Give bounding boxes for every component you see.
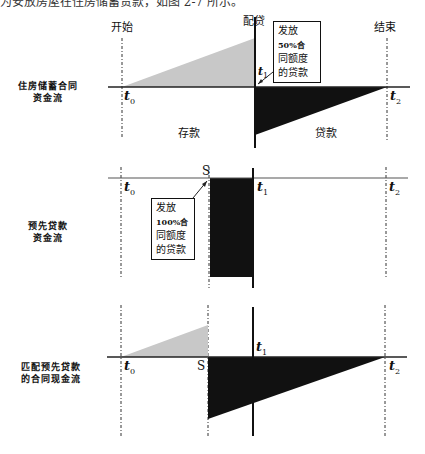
deposit-triangle: [122, 38, 255, 87]
callout-50-percent: 发放50%合 同额度的贷款: [273, 21, 321, 83]
t2-label: t2: [389, 179, 400, 197]
deposit-label: 存款: [178, 124, 200, 140]
t1-label: t1: [256, 339, 267, 357]
t0-label: t0: [124, 358, 135, 376]
t0-label: t0: [124, 179, 135, 197]
callout-100-percent: 发放100%合 同额度的贷款: [151, 198, 195, 260]
s-label: S: [202, 164, 210, 178]
loan-label: 贷款: [315, 124, 337, 140]
panel-1-label: 住房储蓄合同 资金流: [12, 80, 84, 104]
t2-label: t2: [389, 358, 400, 376]
panel-3-label: 匹配预先贷款 的合同现金流: [14, 361, 88, 385]
t0-label: t0: [124, 88, 135, 106]
loan-rect: [210, 178, 253, 277]
panel-1-graphics: [108, 17, 410, 148]
panel-2-label: 预先贷款 资金流: [18, 220, 78, 244]
header-allocation: 配贷: [243, 12, 265, 28]
s-label: S: [197, 359, 205, 373]
panel-3-graphics: [107, 305, 407, 436]
header-end: 结束: [374, 18, 396, 34]
header-start: 开始: [111, 18, 133, 34]
t1-label: t1: [257, 179, 268, 197]
t2-label: t2: [390, 88, 401, 106]
t1-label: t1: [258, 65, 268, 80]
